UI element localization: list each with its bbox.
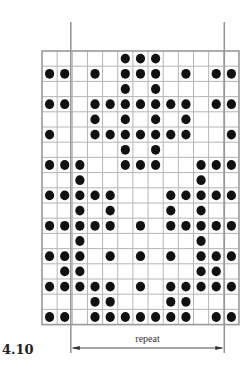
filled-cell-dot [151,69,160,79]
filled-cell-dot [121,54,130,64]
filled-cell-dot [45,221,54,231]
figure-number: 4.10 [2,342,34,357]
filled-cell-dot [181,69,190,79]
filled-cell-dot [75,206,84,216]
filled-cell-dot [227,99,236,109]
filled-cell-dot [121,160,130,170]
filled-cell-dot [196,175,205,185]
filled-cell-dot [151,160,160,170]
filled-cell-dot [151,145,160,155]
filled-cell-dot [60,221,69,231]
filled-cell-dot [212,282,221,292]
filled-cell-dot [227,282,236,292]
filled-cell-dot [196,191,205,201]
filled-cell-dot [196,160,205,170]
filled-cell-dot [90,312,99,322]
filled-cell-dot [151,130,160,140]
filled-cell-dot [106,251,115,261]
filled-cell-dot [227,69,236,79]
filled-cell-dot [181,191,190,201]
filled-cell-dot [136,69,145,79]
filled-cell-dot [181,221,190,231]
filled-cell-dot [75,267,84,277]
filled-cell-dot [136,99,145,109]
filled-cell-dot [212,312,221,322]
filled-cell-dot [181,115,190,125]
filled-cell-dot [45,99,54,109]
filled-cell-dot [45,251,54,261]
filled-cell-dot [121,69,130,79]
filled-cell-dot [166,206,175,216]
filled-cell-dot [121,130,130,140]
filled-cell-dot [136,54,145,64]
repeat-label: repeat [135,333,160,344]
filled-cell-dot [166,297,175,307]
filled-cell-dot [60,312,69,322]
filled-cell-dot [227,191,236,201]
filled-cell-dot [196,221,205,231]
filled-cell-dot [196,282,205,292]
filled-cell-dot [181,297,190,307]
filled-cell-dot [106,312,115,322]
filled-cell-dot [121,99,130,109]
filled-cell-dot [75,191,84,201]
filled-cell-dot [151,54,160,64]
filled-cell-dot [166,99,175,109]
filled-cell-dot [196,267,205,277]
filled-cell-dot [166,221,175,231]
filled-cell-dot [181,99,190,109]
filled-cell-dot [212,221,221,231]
filled-cell-dot [121,115,130,125]
filled-cell-dot [196,236,205,246]
filled-cell-dot [151,312,160,322]
filled-cell-dot [60,251,69,261]
filled-cell-dot [75,175,84,185]
arrow-right-head-icon [215,346,223,350]
filled-cell-dot [212,251,221,261]
chart-diagram: repeat 4.10 [0,0,252,369]
filled-cell-dot [75,236,84,246]
filled-cell-dot [90,221,99,231]
filled-cell-dot [60,99,69,109]
filled-cell-dot [227,251,236,261]
filled-cell-dot [212,99,221,109]
arrow-left-head-icon [72,346,80,350]
filled-cell-dot [196,251,205,261]
filled-cell-dot [166,191,175,201]
filled-cell-dot [151,84,160,94]
filled-cell-dot [45,282,54,292]
filled-cell-dot [90,282,99,292]
filled-cell-dot [106,191,115,201]
filled-cell-dot [75,282,84,292]
filled-cell-dot [106,221,115,231]
filled-cell-dot [136,221,145,231]
filled-cell-dot [136,130,145,140]
filled-cell-dot [166,282,175,292]
filled-cell-dot [45,191,54,201]
filled-cell-dot [106,130,115,140]
filled-cell-dot [136,312,145,322]
filled-cell-dot [90,130,99,140]
filled-cell-dot [45,130,54,140]
filled-cell-dot [45,69,54,79]
filled-cell-dot [181,130,190,140]
filled-cell-dot [136,251,145,261]
filled-cell-dot [90,69,99,79]
filled-cell-dot [136,160,145,170]
filled-cell-dot [106,206,115,216]
filled-cell-dot [227,160,236,170]
filled-cell-dot [212,160,221,170]
filled-cell-dot [136,282,145,292]
filled-cell-dot [90,191,99,201]
filled-cell-dot [60,69,69,79]
filled-cell-dot [196,206,205,216]
filled-cell-dot [45,160,54,170]
filled-cell-dot [121,312,130,322]
filled-cell-dot [60,282,69,292]
filled-cell-dot [212,191,221,201]
filled-cell-dot [227,312,236,322]
filled-cell-dot [45,312,54,322]
filled-cell-dot [75,160,84,170]
filled-cell-dot [181,312,190,322]
filled-cell-dot [121,84,130,94]
